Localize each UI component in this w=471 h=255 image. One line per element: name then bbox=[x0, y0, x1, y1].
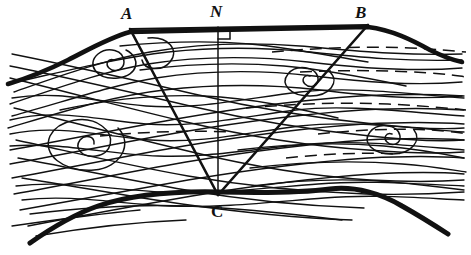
vertex-label-c: C bbox=[211, 203, 223, 220]
vertex-label-n: N bbox=[210, 3, 222, 20]
figure-root: A N B C bbox=[0, 0, 471, 255]
vertex-label-b: B bbox=[355, 4, 366, 21]
vertex-label-a: A bbox=[121, 5, 132, 22]
flow-diagram-svg bbox=[0, 0, 471, 255]
